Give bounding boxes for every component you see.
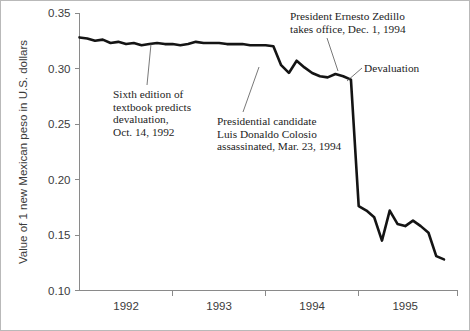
leader-line-devaluation xyxy=(347,68,362,81)
leader-line-zedillo xyxy=(327,38,338,71)
annotation-line: Devaluation xyxy=(364,62,419,75)
annotation-line: textbook predicts xyxy=(113,101,191,114)
y-tick-label: 0.25 xyxy=(48,118,70,130)
annotation-line: President Ernesto Zedillo xyxy=(290,10,406,23)
annotation-line: assassinated, Mar. 23, 1994 xyxy=(217,140,341,153)
y-tick-label: 0.15 xyxy=(48,229,70,241)
annotation-zedillo-takes-office: President Ernesto Zedillo takes office, … xyxy=(290,10,406,35)
y-tick-label: 0.20 xyxy=(48,174,70,186)
x-tick-label: 1994 xyxy=(299,300,325,312)
annotation-line: devaluation, xyxy=(113,113,191,126)
y-ticks-group: 0.350.300.250.200.150.10 xyxy=(48,7,79,297)
annotation-colosio-assassination: Presidential candidate Luis Donaldo Colo… xyxy=(217,115,341,153)
x-ticks-group: 1992199319941995 xyxy=(113,291,457,312)
annotation-line: Sixth edition of xyxy=(113,88,191,101)
annotation-line: Luis Donaldo Colosio xyxy=(217,128,341,141)
leader-line-textbook xyxy=(147,44,151,85)
x-tick-label: 1992 xyxy=(113,300,139,312)
chart-figure: 0.350.300.250.200.150.10 199219931994199… xyxy=(0,0,470,331)
peso-value-line-chart: 0.350.300.250.200.150.10 199219931994199… xyxy=(1,1,470,331)
y-tick-label: 0.10 xyxy=(48,285,70,297)
annotation-devaluation: Devaluation xyxy=(364,62,419,75)
leader-line-colosio xyxy=(243,67,259,112)
x-tick-label: 1993 xyxy=(206,300,232,312)
y-axis-title: Value of 1 new Mexican peso in U.S. doll… xyxy=(17,40,29,264)
y-tick-label: 0.30 xyxy=(48,63,70,75)
annotation-textbook-prediction: Sixth edition of textbook predicts deval… xyxy=(113,88,191,138)
y-tick-label: 0.35 xyxy=(48,7,70,19)
annotation-line: Oct. 14, 1992 xyxy=(113,126,191,139)
x-tick-label: 1995 xyxy=(392,300,418,312)
annotation-line: takes office, Dec. 1, 1994 xyxy=(290,23,406,36)
annotation-line: Presidential candidate xyxy=(217,115,341,128)
